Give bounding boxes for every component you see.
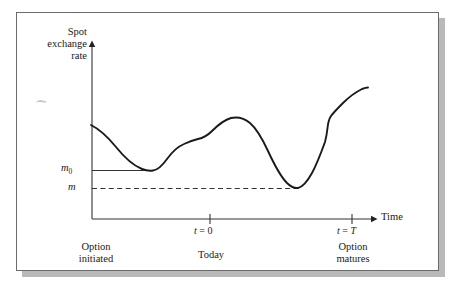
- t-T-variable: t: [337, 225, 340, 236]
- y-axis-label: Spot exchange rate: [47, 26, 87, 61]
- m-zero-symbol: m: [61, 162, 69, 173]
- annotation-today: Today: [186, 249, 236, 261]
- m-zero-subscript: 0: [69, 167, 73, 176]
- x-axis-label: Time: [381, 211, 403, 223]
- spot-rate-curve: [91, 88, 368, 189]
- t-zero-variable: t: [194, 225, 197, 236]
- m-zero-level-label: m0: [61, 162, 72, 176]
- m-level-label: m: [68, 181, 76, 193]
- tick-label-t-capital-T: t = T: [337, 225, 356, 236]
- t-T-maturity-symbol: T: [350, 225, 356, 236]
- t-zero-value: = 0: [199, 225, 212, 236]
- annotation-option-matures: Option matures: [322, 241, 384, 265]
- figure-page: Spot exchange rate Time m0 m t = 0 t = T…: [0, 0, 456, 296]
- annotation-option-initiated: Option initiated: [66, 241, 126, 265]
- tick-label-t-zero: t = 0: [194, 225, 212, 236]
